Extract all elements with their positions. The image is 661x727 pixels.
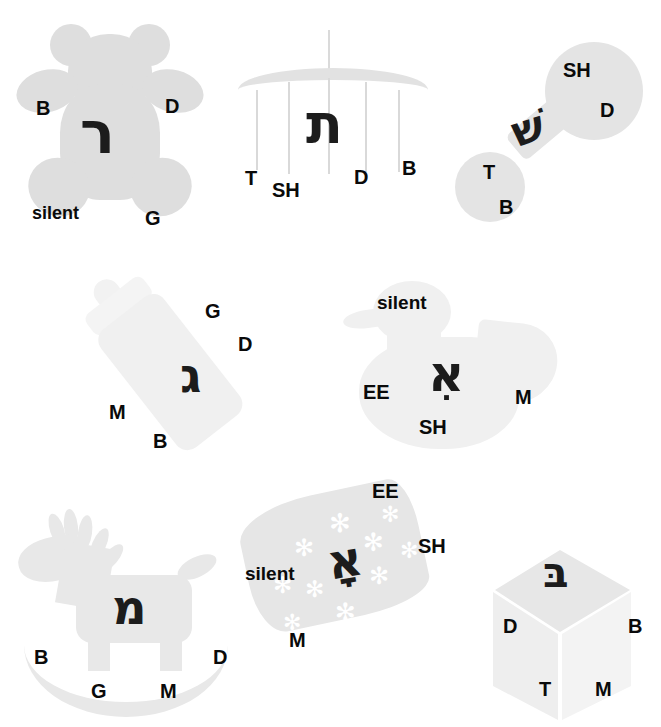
- snowflake-icon: ✻: [381, 504, 399, 526]
- answer-label-t[interactable]: T: [245, 168, 257, 188]
- hebrew-letter: שׁ: [506, 104, 549, 154]
- answer-label-d[interactable]: D: [165, 96, 179, 116]
- item-rocking-horse[interactable]: מ B D G M: [8, 495, 243, 700]
- answer-label-silent[interactable]: silent: [377, 293, 427, 312]
- answer-label-g[interactable]: G: [91, 681, 107, 701]
- answer-label-b[interactable]: B: [153, 431, 167, 451]
- snowflake-icon: ✻: [363, 530, 384, 555]
- snowflake-icon: ✻: [369, 564, 389, 588]
- answer-label-t[interactable]: T: [483, 162, 495, 182]
- item-blanket[interactable]: ✻ ✻ ✻ ✻ ✻ ✻ ✻ ✻ ✻ ✻ אָ EE SH silent M: [235, 478, 450, 658]
- answer-label-t[interactable]: T: [539, 679, 551, 699]
- hebrew-letter: מ: [112, 583, 147, 631]
- item-bottle[interactable]: ג G D M B: [95, 265, 290, 460]
- answer-label-b[interactable]: B: [34, 647, 48, 667]
- snowflake-icon: ✻: [305, 578, 324, 601]
- snowflake-icon: ✻: [400, 540, 418, 562]
- answer-label-b[interactable]: B: [402, 158, 416, 178]
- answer-label-silent[interactable]: silent: [32, 204, 79, 222]
- answer-label-sh[interactable]: SH: [563, 60, 591, 80]
- snowflake-icon: ✻: [335, 600, 356, 625]
- hebrew-letter: ת: [306, 98, 343, 152]
- answer-label-m[interactable]: M: [515, 387, 532, 407]
- answer-label-d[interactable]: D: [503, 616, 517, 636]
- answer-label-silent[interactable]: silent: [245, 564, 295, 583]
- item-mobile[interactable]: ת T SH D B: [230, 30, 430, 230]
- snowflake-icon: ✻: [294, 536, 314, 560]
- hebrew-letter: אָ: [323, 533, 366, 586]
- answer-label-b[interactable]: B: [499, 197, 513, 217]
- answer-label-sh[interactable]: SH: [418, 536, 446, 556]
- answer-label-g[interactable]: G: [145, 208, 161, 228]
- answer-label-m[interactable]: M: [289, 630, 306, 650]
- answer-label-ee[interactable]: EE: [372, 481, 399, 501]
- worksheet-page: Find the Letter with the Sound ר B D sil…: [0, 0, 661, 727]
- answer-label-sh[interactable]: SH: [272, 180, 300, 200]
- hebrew-letter: ג: [180, 351, 201, 399]
- answer-label-b[interactable]: B: [628, 616, 642, 636]
- item-duck[interactable]: אִ silent EE SH M: [325, 277, 560, 462]
- answer-label-b[interactable]: B: [36, 98, 50, 118]
- item-block[interactable]: בּ D B T M: [465, 534, 660, 724]
- answer-label-m[interactable]: M: [109, 402, 126, 422]
- hebrew-letter: ר: [80, 104, 115, 162]
- item-rattle[interactable]: שׁ SH D T B: [445, 42, 650, 232]
- answer-label-m[interactable]: M: [595, 679, 612, 699]
- answer-label-m[interactable]: M: [160, 681, 177, 701]
- hebrew-letter: בּ: [543, 552, 569, 594]
- answer-label-d[interactable]: D: [354, 167, 368, 187]
- answer-label-sh[interactable]: SH: [419, 417, 447, 437]
- answer-label-ee[interactable]: EE: [363, 382, 390, 402]
- answer-label-d[interactable]: D: [213, 647, 227, 667]
- answer-label-d[interactable]: D: [600, 100, 614, 120]
- item-teddy-bear[interactable]: ר B D silent G: [10, 18, 210, 248]
- hebrew-letter: אִ: [428, 349, 464, 399]
- answer-label-d[interactable]: D: [238, 334, 252, 354]
- answer-label-g[interactable]: G: [205, 301, 221, 321]
